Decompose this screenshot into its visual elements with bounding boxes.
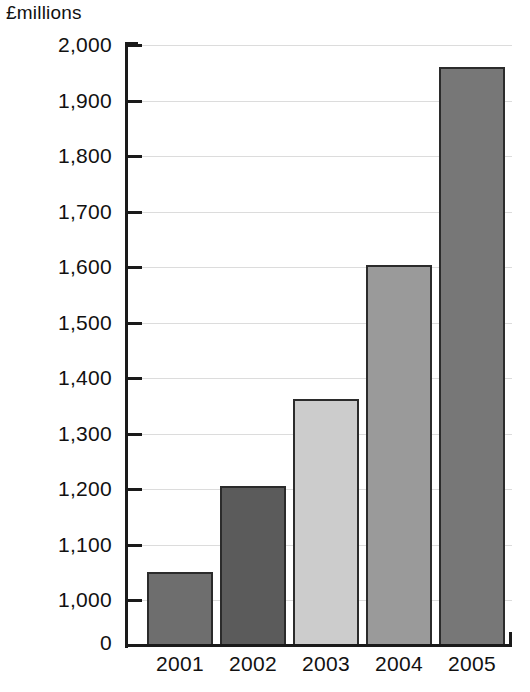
y-tick-label: 1,900 [58,89,112,113]
y-tick-label: 2,000 [58,33,112,57]
x-tick-label: 2004 [375,652,423,676]
y-tick-mark [128,433,142,436]
y-tick-label: 1,300 [58,422,112,446]
x-tick-label: 2005 [448,652,496,676]
bar-2002 [220,486,286,646]
bar-2004 [366,265,432,646]
bar-2003 [293,399,359,646]
y-tick-mark [128,211,142,214]
x-tick-label: 2002 [229,652,277,676]
bar-2001 [147,572,213,646]
y-tick-mark [128,155,142,158]
y-tick-label: 0 [100,631,112,655]
y-tick-mark [128,544,142,547]
y-axis-line [125,42,128,648]
y-tick-label: 1,100 [58,533,112,557]
y-tick-mark [128,377,142,380]
y-tick-mark [128,266,142,269]
y-tick-mark [128,100,142,103]
x-tick-label: 2003 [302,652,350,676]
y-tick-label: 1,800 [58,144,112,168]
y-tick-mark [128,322,142,325]
y-tick-mark [128,599,142,602]
y-tick-label: 1,700 [58,200,112,224]
y-tick-label: 1,500 [58,311,112,335]
bar-chart: £millions 2,0001,9001,8001,7001,6001,500… [0,0,530,692]
y-tick-mark [128,44,142,47]
y-axis-unit-label: £millions [6,2,82,24]
y-tick-label: 1,600 [58,255,112,279]
x-axis-right-cap [509,632,512,647]
x-tick-label: 2001 [156,652,204,676]
x-axis-line [125,644,512,647]
y-tick-label: 1,200 [58,477,112,501]
gridline [128,45,512,46]
y-tick-label: 1,000 [58,588,112,612]
bar-2005 [439,67,505,646]
y-tick-mark [128,488,142,491]
y-tick-label: 1,400 [58,366,112,390]
